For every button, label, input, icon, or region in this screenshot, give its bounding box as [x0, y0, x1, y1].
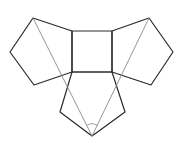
bottom-pentagon	[60, 72, 125, 136]
left-guide-line	[33, 18, 92, 136]
left-pentagon	[10, 18, 72, 85]
right-guide-line	[92, 18, 149, 136]
central-square	[72, 31, 112, 72]
pentagon-square-net-diagram	[0, 0, 187, 152]
apex-angle-arc	[87, 124, 97, 126]
